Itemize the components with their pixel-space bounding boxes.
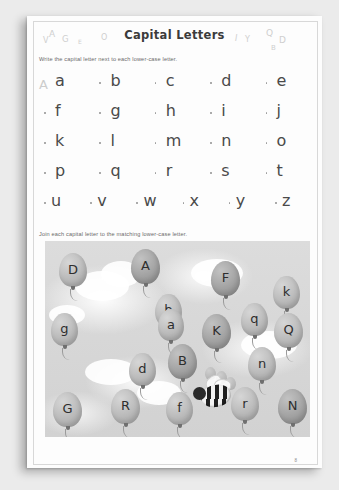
- letter-cell[interactable]: d: [203, 70, 258, 100]
- lowercase-letter: l: [110, 131, 114, 150]
- balloon-string: [65, 429, 73, 437]
- balloon-N[interactable]: N: [278, 389, 307, 424]
- balloon-picture[interactable]: DAbgaFkKqQdBnGRfrN: [45, 241, 310, 437]
- balloon-body: a: [158, 309, 184, 341]
- letter-cell[interactable]: k: [37, 130, 92, 160]
- balloon-string: [259, 383, 267, 395]
- balloon-letter: q: [250, 311, 258, 326]
- answer-dot: [183, 202, 185, 204]
- balloon-body: G: [53, 392, 82, 427]
- balloon-string: [242, 423, 250, 435]
- instruction-write-capital: Write the capital letter next to each lo…: [39, 56, 177, 62]
- letter-cell[interactable]: i: [203, 100, 258, 130]
- letter-cell[interactable]: t: [259, 160, 314, 190]
- balloon-n[interactable]: n: [248, 347, 276, 381]
- letter-cell[interactable]: v: [83, 190, 129, 220]
- letter-cell[interactable]: f: [37, 100, 92, 130]
- lowercase-letter: t: [277, 161, 283, 180]
- answer-dot: [266, 82, 268, 84]
- balloon-body: q: [241, 303, 268, 336]
- letter-cell[interactable]: w: [129, 190, 175, 220]
- worksheet-page: V A G E O Capital Letters I Y Q D B Writ…: [0, 0, 339, 490]
- decorative-letter-b: B: [271, 44, 276, 52]
- letter-cell[interactable]: h: [148, 100, 203, 130]
- lowercase-letter: z: [282, 191, 290, 210]
- letter-cell[interactable]: r: [148, 160, 203, 190]
- lowercase-letter: w: [143, 191, 156, 210]
- letter-cell[interactable]: c: [148, 70, 203, 100]
- balloon-F[interactable]: F: [211, 261, 240, 296]
- balloon-body: N: [278, 389, 307, 424]
- letter-cell[interactable]: p: [37, 160, 92, 190]
- answer-dot: [210, 172, 212, 174]
- balloon-body: g: [51, 313, 78, 346]
- balloon-A[interactable]: A: [131, 249, 160, 284]
- balloon-k[interactable]: k: [273, 276, 300, 309]
- answer-dot: [44, 172, 46, 174]
- balloon-R[interactable]: R: [111, 389, 140, 424]
- letter-cell[interactable]: y: [222, 190, 268, 220]
- balloon-d[interactable]: d: [129, 353, 156, 386]
- balloon-D[interactable]: D: [59, 253, 87, 287]
- letter-cell[interactable]: j: [259, 100, 314, 130]
- balloon-letter: g: [60, 321, 68, 336]
- lowercase-letter: r: [166, 161, 173, 180]
- answer-dot: [210, 112, 212, 114]
- decorative-letter-d: D: [279, 35, 286, 45]
- lowercase-letter: i: [221, 101, 225, 120]
- balloon-string: [290, 426, 298, 437]
- letter-cell[interactable]: q: [92, 160, 147, 190]
- letter-cell[interactable]: z: [268, 190, 314, 220]
- letter-cell[interactable]: s: [203, 160, 258, 190]
- lowercase-letter: p: [55, 161, 65, 180]
- decorative-letter-q: Q: [266, 28, 273, 38]
- letter-cell[interactable]: l: [92, 130, 147, 160]
- bee-head: [193, 387, 206, 400]
- balloon-body: D: [59, 253, 87, 287]
- lowercase-letter: k: [55, 131, 64, 150]
- balloon-f[interactable]: f: [166, 392, 193, 425]
- balloon-Q[interactable]: Q: [274, 313, 303, 348]
- lowercase-letter: h: [166, 101, 176, 120]
- letter-cell[interactable]: x: [176, 190, 222, 220]
- letter-grid: A a b c d e f: [37, 70, 314, 220]
- answer-dot: [266, 112, 268, 114]
- decorative-letter-y: Y: [245, 35, 250, 44]
- balloon-G[interactable]: G: [53, 392, 82, 427]
- letter-cell[interactable]: n: [203, 130, 258, 160]
- letter-cell[interactable]: o: [259, 130, 314, 160]
- letter-cell[interactable]: b: [92, 70, 147, 100]
- letter-cell[interactable]: u: [37, 190, 83, 220]
- letter-cell[interactable]: A a: [37, 70, 92, 100]
- balloon-letter: Q: [283, 322, 293, 337]
- lowercase-letter: d: [221, 71, 231, 90]
- letter-grid-row: u v w x y z: [37, 190, 314, 220]
- letter-cell[interactable]: e: [259, 70, 314, 100]
- balloon-letter: k: [283, 284, 291, 299]
- lowercase-letter: g: [110, 101, 120, 120]
- lowercase-letter: s: [221, 161, 229, 180]
- balloon-letter: r: [242, 396, 247, 411]
- balloon-a[interactable]: a: [158, 309, 184, 341]
- answer-dot: [266, 142, 268, 144]
- answer-dot: [90, 202, 92, 204]
- balloon-letter: A: [141, 258, 150, 273]
- lowercase-letter: j: [277, 101, 281, 120]
- answer-dot: [210, 142, 212, 144]
- balloon-q[interactable]: q: [241, 303, 268, 336]
- letter-cell[interactable]: m: [148, 130, 203, 160]
- lowercase-letter: m: [166, 131, 182, 150]
- balloon-letter: n: [258, 356, 266, 371]
- lowercase-letter: b: [110, 71, 120, 90]
- balloon-body: d: [129, 353, 156, 386]
- lowercase-letter: y: [236, 191, 245, 210]
- bee-character: [191, 367, 243, 415]
- balloon-string: [143, 286, 151, 298]
- answer-dot: [99, 142, 101, 144]
- balloon-body: n: [248, 347, 276, 381]
- balloon-string: [123, 426, 131, 437]
- balloon-K[interactable]: K: [202, 314, 231, 349]
- lowercase-letter: v: [97, 191, 106, 210]
- letter-cell[interactable]: g: [92, 100, 147, 130]
- balloon-g[interactable]: g: [51, 313, 78, 346]
